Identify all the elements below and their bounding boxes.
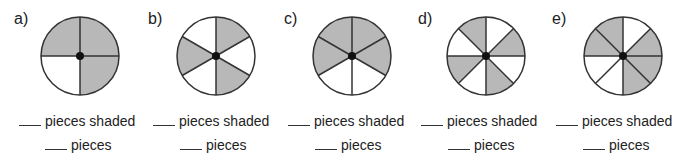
fraction-circle: [310, 14, 394, 98]
problem-a: a) pieces shaded pieces: [0, 0, 136, 163]
pieces-text: pieces: [474, 137, 514, 153]
answer-blank[interactable]: [153, 113, 175, 126]
fraction-circle: [38, 14, 122, 98]
total-pieces-answer[interactable]: pieces: [45, 137, 111, 153]
pieces-shaded-answer[interactable]: pieces shaded: [421, 113, 537, 129]
fraction-circle: [444, 14, 528, 98]
answer-blank[interactable]: [180, 137, 202, 150]
pieces-shaded-answer[interactable]: pieces shaded: [19, 113, 135, 129]
total-pieces-answer[interactable]: pieces: [315, 137, 381, 153]
problem-d: d) pieces shaded pieces: [404, 0, 540, 163]
total-pieces-answer[interactable]: pieces: [448, 137, 514, 153]
problem-label: d): [418, 10, 432, 28]
total-pieces-answer[interactable]: pieces: [583, 137, 649, 153]
problem-e: e) pieces shaded pieces: [540, 0, 676, 163]
problem-label: c): [284, 10, 297, 28]
answer-blank[interactable]: [556, 113, 578, 126]
pieces-shaded-text: pieces shaded: [447, 113, 537, 129]
problem-label: e): [552, 10, 566, 28]
pieces-shaded-answer[interactable]: pieces shaded: [556, 113, 672, 129]
answer-blank[interactable]: [315, 137, 337, 150]
pieces-text: pieces: [341, 137, 381, 153]
answer-blank[interactable]: [421, 113, 443, 126]
problem-label: b): [148, 10, 162, 28]
problem-c: c) pieces shaded pieces: [270, 0, 406, 163]
pieces-shaded-text: pieces shaded: [179, 113, 269, 129]
answer-blank[interactable]: [583, 137, 605, 150]
problem-label: a): [14, 10, 28, 28]
pieces-shaded-text: pieces shaded: [582, 113, 672, 129]
answer-blank[interactable]: [19, 113, 41, 126]
pieces-shaded-answer[interactable]: pieces shaded: [288, 113, 404, 129]
pieces-shaded-answer[interactable]: pieces shaded: [153, 113, 269, 129]
pieces-text: pieces: [609, 137, 649, 153]
pieces-text: pieces: [206, 137, 246, 153]
fraction-circle: [174, 14, 258, 98]
fraction-circle: [581, 14, 665, 98]
pieces-shaded-text: pieces shaded: [45, 113, 135, 129]
answer-blank[interactable]: [288, 113, 310, 126]
total-pieces-answer[interactable]: pieces: [180, 137, 246, 153]
answer-blank[interactable]: [448, 137, 470, 150]
problem-b: b) pieces shaded pieces: [134, 0, 270, 163]
pieces-text: pieces: [71, 137, 111, 153]
pieces-shaded-text: pieces shaded: [314, 113, 404, 129]
answer-blank[interactable]: [45, 137, 67, 150]
